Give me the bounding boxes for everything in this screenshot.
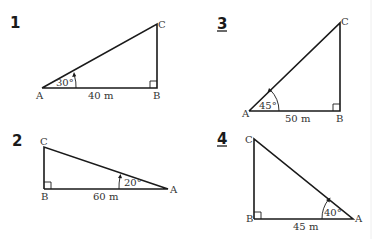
arrow-head-icon [118,174,122,178]
right-triangle [249,23,340,111]
vertex-b: B [153,90,160,101]
problem-number: 1 [10,14,20,32]
vertex-c: C [158,19,166,30]
right-angle-marker [44,182,51,189]
angle-label: 30° [56,77,74,88]
triangle-exercises: 1 30° A B C 40 m 3 45° A B C 50 m 2 20° … [0,0,377,239]
vertex-b: B [246,213,253,224]
vertex-a: A [354,213,363,224]
right-angle-marker [150,81,157,88]
problem-number: 3 [217,15,227,33]
vertex-a: A [241,108,250,119]
angle-arc [75,76,77,88]
side-label: 40 m [88,90,114,101]
problem-number: 4 [217,130,227,148]
right-angle-marker [254,212,261,219]
angle-arc [119,177,120,189]
problem-1: 1 30° A B C 40 m [10,14,166,101]
vertex-b: B [336,113,343,124]
side-label: 50 m [285,113,311,124]
side-label: 60 m [93,191,119,202]
angle-label: 45° [259,100,277,111]
vertex-a: A [35,90,44,101]
side-label: 45 m [293,221,319,232]
vertex-a: A [169,184,178,195]
problem-2: 2 20° A B C 60 m [12,132,178,202]
vertex-b: B [41,191,48,202]
angle-label: 20° [124,177,142,188]
right-angle-marker [333,104,340,111]
right-triangle [44,147,168,189]
angle-label: 40° [324,207,342,218]
problem-4: 4 40° A B C 45 m [217,130,363,232]
problem-number: 2 [12,132,22,150]
vertex-c: C [245,134,253,145]
vertex-c: C [40,136,48,147]
problem-3: 3 45° A B C 50 m [217,15,349,124]
vertex-c: C [341,16,349,27]
